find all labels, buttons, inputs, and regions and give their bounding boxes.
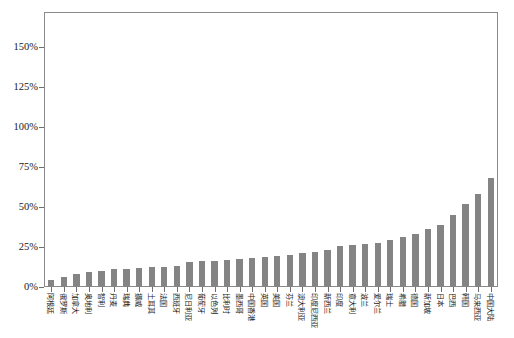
bar bbox=[287, 255, 293, 287]
x-axis-tick-mark bbox=[340, 287, 341, 292]
y-axis-tick-label: 75% bbox=[19, 162, 38, 173]
x-axis-tick-label: 智利 bbox=[97, 293, 104, 307]
x-axis-tick-label: 印度 bbox=[336, 293, 343, 307]
bar bbox=[375, 243, 381, 287]
x-axis-tick-label: 尼日利亚 bbox=[185, 293, 192, 321]
x-axis-tick-label: 中国大陆 bbox=[487, 293, 494, 321]
x-axis-tick-label: 俄罗斯 bbox=[60, 293, 67, 314]
y-axis-tick-label: 25% bbox=[19, 242, 38, 253]
y-axis-tick-label: 100% bbox=[14, 122, 39, 133]
bars-container bbox=[45, 13, 497, 287]
x-axis-tick-mark bbox=[441, 287, 442, 292]
bar bbox=[274, 256, 280, 287]
x-axis-tick-mark bbox=[139, 287, 140, 292]
x-axis-tick-label: 波兰 bbox=[361, 293, 368, 307]
bar bbox=[262, 257, 268, 287]
bar bbox=[312, 252, 318, 287]
bar bbox=[337, 246, 343, 287]
x-axis-labels: 阿根廷俄罗斯加拿大奥地利智利丹麦瑞典挪威土耳其法国西班牙尼日利亚葡萄牙以色列比利… bbox=[45, 293, 497, 338]
x-axis-tick-mark bbox=[215, 287, 216, 292]
x-axis-tick-mark bbox=[290, 287, 291, 292]
bar bbox=[450, 215, 456, 287]
bar bbox=[249, 258, 255, 287]
bar bbox=[174, 266, 180, 287]
x-axis-tick-mark bbox=[466, 287, 467, 292]
y-axis-tick-mark bbox=[39, 167, 44, 168]
x-axis-tick-mark bbox=[51, 287, 52, 292]
bar bbox=[111, 269, 117, 287]
x-axis-tick-mark bbox=[89, 287, 90, 292]
y-axis-tick-mark bbox=[39, 87, 44, 88]
x-axis-tick-label: 瑞士 bbox=[386, 293, 393, 307]
bar bbox=[349, 245, 355, 287]
bar bbox=[425, 229, 431, 287]
x-axis-tick-mark bbox=[302, 287, 303, 292]
x-axis-tick-label: 澳大利亚 bbox=[298, 293, 305, 321]
x-axis-tick-label: 韩国 bbox=[461, 293, 468, 307]
x-axis-tick-mark bbox=[252, 287, 253, 292]
y-axis-tick-mark bbox=[39, 247, 44, 248]
x-axis-tick-label: 以色列 bbox=[210, 293, 217, 314]
bar bbox=[236, 259, 242, 287]
x-axis-tick-label: 墨西哥 bbox=[235, 293, 242, 314]
y-axis-tick-label: 0% bbox=[24, 282, 38, 293]
bar bbox=[86, 272, 92, 287]
bar bbox=[387, 240, 393, 287]
x-axis-tick-label: 丹麦 bbox=[110, 293, 117, 307]
x-axis-tick-label: 马来西亚 bbox=[474, 293, 481, 321]
x-axis-tick-mark bbox=[177, 287, 178, 292]
x-axis-tick-label: 中国香港 bbox=[248, 293, 255, 321]
bar bbox=[488, 178, 494, 287]
bar bbox=[324, 250, 330, 287]
bar bbox=[61, 277, 67, 287]
bar bbox=[437, 225, 443, 287]
x-axis-tick-mark bbox=[277, 287, 278, 292]
x-axis-tick-mark bbox=[265, 287, 266, 292]
x-axis-tick-label: 芬兰 bbox=[286, 293, 293, 307]
x-axis-tick-mark bbox=[328, 287, 329, 292]
x-axis-tick-mark bbox=[415, 287, 416, 292]
x-axis-tick-mark bbox=[240, 287, 241, 292]
x-axis-tick-mark bbox=[315, 287, 316, 292]
x-axis-tick-mark bbox=[390, 287, 391, 292]
x-axis-tick-mark bbox=[365, 287, 366, 292]
x-axis-tick-mark bbox=[189, 287, 190, 292]
y-axis-tick-label: 150% bbox=[14, 41, 39, 52]
bar bbox=[475, 194, 481, 287]
x-axis-tick-label: 西班牙 bbox=[173, 293, 180, 314]
x-axis-tick-label: 法国 bbox=[160, 293, 167, 307]
x-axis-tick-mark bbox=[202, 287, 203, 292]
x-axis-tick-mark bbox=[64, 287, 65, 292]
x-axis-tick-mark bbox=[227, 287, 228, 292]
y-axis-tick-mark bbox=[39, 47, 44, 48]
y-axis-tick-mark bbox=[39, 127, 44, 128]
bar bbox=[211, 261, 217, 287]
x-axis-tick-label: 印度尼西亚 bbox=[311, 293, 318, 328]
x-axis-tick-label: 瑞典 bbox=[122, 293, 129, 307]
x-axis-tick-mark bbox=[353, 287, 354, 292]
x-axis-tick-mark bbox=[428, 287, 429, 292]
x-axis-tick-label: 日本 bbox=[436, 293, 443, 307]
x-axis-tick-label: 英国 bbox=[261, 293, 268, 307]
x-axis-tick-marks bbox=[45, 287, 497, 292]
x-axis-tick-mark bbox=[478, 287, 479, 292]
x-axis-tick-mark bbox=[378, 287, 379, 292]
y-axis-tick-label: 50% bbox=[19, 202, 38, 213]
x-axis-tick-label: 阿根廷 bbox=[47, 293, 54, 314]
y-axis-tick-mark bbox=[39, 207, 44, 208]
x-axis-tick-label: 德国 bbox=[411, 293, 418, 307]
bar bbox=[400, 237, 406, 287]
y-axis-labels: 0%25%50%75%100%125%150% bbox=[0, 0, 38, 338]
bar bbox=[362, 244, 368, 287]
bar bbox=[412, 234, 418, 287]
x-axis-tick-mark bbox=[114, 287, 115, 292]
x-axis-tick-mark bbox=[453, 287, 454, 292]
bar bbox=[186, 262, 192, 287]
x-axis-tick-label: 意大利 bbox=[348, 293, 355, 314]
bar bbox=[462, 204, 468, 287]
bar bbox=[98, 271, 104, 287]
bar bbox=[299, 253, 305, 287]
x-axis-tick-label: 奥地利 bbox=[85, 293, 92, 314]
bar bbox=[161, 267, 167, 287]
x-axis-tick-label: 巴西 bbox=[449, 293, 456, 307]
